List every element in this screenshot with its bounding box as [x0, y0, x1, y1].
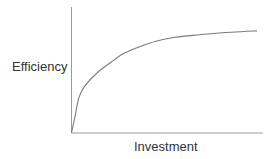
efficiency-curve	[72, 31, 258, 133]
chart-plot	[0, 0, 273, 159]
y-axis-label: Efficiency	[12, 59, 67, 75]
chart-container: Efficiency Investment	[0, 0, 273, 159]
x-axis-label: Investment	[134, 139, 198, 155]
